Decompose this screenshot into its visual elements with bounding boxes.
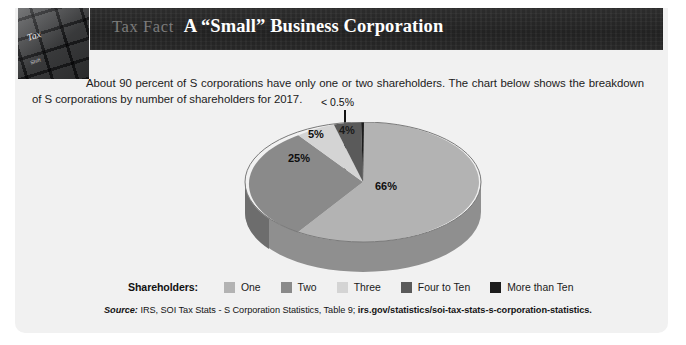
header-banner: Tax Fact A “Small” Business Corporation <box>90 8 663 50</box>
legend-label-more-than-ten: More than Ten <box>507 282 573 293</box>
legend-swatch-more-than-ten-icon <box>490 282 501 293</box>
banner-text-group: Tax Fact A “Small” Business Corporation <box>112 16 443 37</box>
legend-swatch-four-to-ten-icon <box>401 282 412 293</box>
source-url[interactable]: irs.gov/statistics/soi-tax-stats-s-corpo… <box>358 305 592 315</box>
legend-label-four-to-ten: Four to Ten <box>418 282 470 293</box>
pie-chart-graphic <box>243 122 483 272</box>
legend-swatch-one-icon <box>224 282 235 293</box>
tax-fact-figure: Tax Shift Tax Fact A “Small” Business Co… <box>0 0 686 345</box>
source-text: IRS, SOI Tax Stats - S Corporation Stati… <box>140 305 355 315</box>
legend-item-two: Two <box>281 282 317 293</box>
legend-label-two: Two <box>298 282 317 293</box>
legend-swatch-two-icon <box>281 282 292 293</box>
pie-label-two: 25% <box>288 152 310 164</box>
keyboard-photo: Tax Shift <box>18 8 89 79</box>
legend-item-more-than-ten: More than Ten <box>490 282 573 293</box>
callout-label-less-than-half-percent: < 0.5% <box>321 96 354 108</box>
legend-item-one: One <box>224 282 261 293</box>
pie-label-four-to-ten: 4% <box>339 124 355 136</box>
photo-shading-overlay <box>18 8 89 79</box>
pie-chart: < 0.5% <box>15 96 668 276</box>
legend-label-one: One <box>241 282 261 293</box>
legend-item-three: Three <box>337 282 381 293</box>
pie-label-one: 66% <box>375 180 397 192</box>
page-title: A “Small” Business Corporation <box>184 16 443 37</box>
tax-fact-eyebrow: Tax Fact <box>112 17 174 37</box>
source-line: Source: IRS, SOI Tax Stats - S Corporati… <box>104 305 592 315</box>
pie-label-three: 5% <box>308 128 324 140</box>
source-label: Source: <box>104 305 138 315</box>
legend-item-four-to-ten: Four to Ten <box>401 282 470 293</box>
legend-title: Shareholders: <box>128 281 198 293</box>
chart-legend: Shareholders: One Two Three Four to Ten … <box>128 281 573 293</box>
legend-swatch-three-icon <box>337 282 348 293</box>
legend-label-three: Three <box>354 282 381 293</box>
